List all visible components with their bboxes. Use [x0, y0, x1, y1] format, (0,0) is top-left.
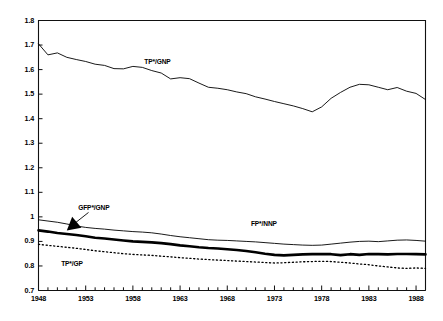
y-axis-tick-label: 1.4 — [25, 115, 34, 122]
y-axis-tick-label: 1.7 — [25, 41, 34, 48]
series-line-1 — [39, 220, 426, 246]
series-label-tp-gnp: TP*/GNP — [144, 59, 170, 66]
x-axis-tick-label: 1968 — [207, 295, 247, 302]
y-axis-tick-label: 1.1 — [25, 188, 34, 195]
chart-annotation-arrow — [67, 212, 89, 230]
chart-container: 1.81.71.61.51.41.31.21.110.90.80.7 19481… — [0, 0, 443, 321]
y-axis-tick-label: 0.9 — [25, 237, 34, 244]
y-axis-tick-label: 1.6 — [25, 66, 34, 73]
y-axis-tick-label: 1.8 — [25, 17, 34, 24]
x-axis-tick-label: 1978 — [302, 295, 342, 302]
y-axis-tick-label: 0.7 — [25, 287, 34, 294]
x-axis-tick-label: 1953 — [66, 295, 106, 302]
chart-series-lines — [39, 44, 426, 269]
series-line-0 — [39, 44, 426, 112]
series-label-gfp-gnp: GFP*/GNP — [78, 205, 109, 212]
x-axis-tick-label: 1988 — [396, 295, 436, 302]
x-axis-tick-label: 1983 — [349, 295, 389, 302]
x-axis-tick-label: 1958 — [113, 295, 153, 302]
y-axis-tick-label: 1.5 — [25, 90, 34, 97]
y-axis-tick-label: 1.3 — [25, 139, 34, 146]
series-label-fp-nnp: FP*/NNP — [251, 221, 277, 228]
series-line-3 — [39, 244, 426, 268]
chart-plot-svg — [0, 0, 443, 321]
series-label-tp-gp: TP*/GP — [61, 261, 83, 268]
y-axis-tick-label: 0.8 — [25, 262, 34, 269]
series-line-2 — [39, 230, 426, 255]
y-axis-tick-label: 1 — [30, 213, 34, 220]
x-axis-tick-label: 1948 — [19, 295, 59, 302]
x-axis-tick-label: 1973 — [254, 295, 294, 302]
y-axis-tick-label: 1.2 — [25, 164, 34, 171]
x-axis-tick-label: 1963 — [160, 295, 200, 302]
